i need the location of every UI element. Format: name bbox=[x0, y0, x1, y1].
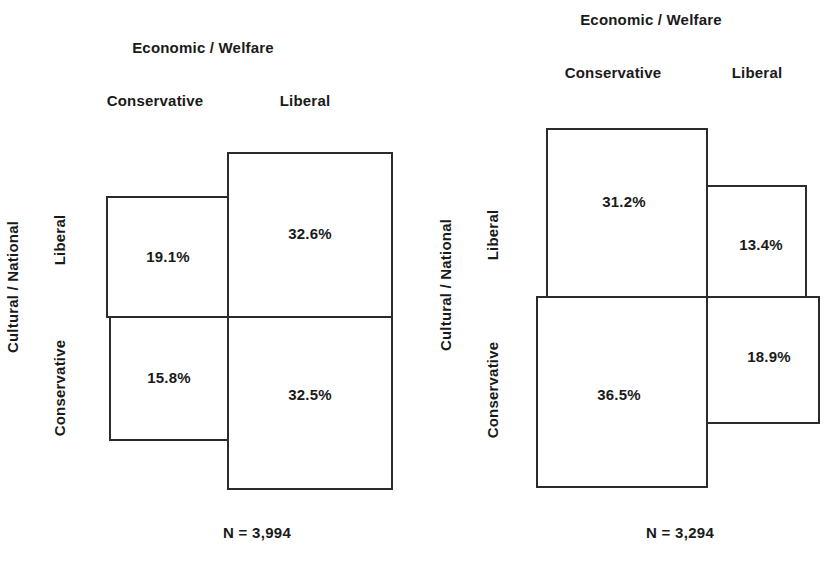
left-column-axis-title: Economic / Welfare bbox=[132, 39, 274, 56]
left-cell-label-conservative-liberal: 32.5% bbox=[288, 386, 332, 403]
mosaic-plot-figure: Economic / Welfare Conservative Liberal … bbox=[0, 0, 834, 567]
left-row-header-conservative: Conservative bbox=[51, 340, 68, 437]
left-cell-label-conservative-conservative: 15.8% bbox=[147, 369, 191, 386]
right-cell-rect-liberal-conservative bbox=[547, 129, 707, 297]
right-row-axis-title: Cultural / National bbox=[437, 219, 454, 351]
right-column-axis-title: Economic / Welfare bbox=[580, 11, 722, 28]
left-sample-size-label: N = 3,994 bbox=[223, 524, 292, 541]
left-cell-label-liberal-conservative: 19.1% bbox=[146, 248, 190, 265]
left-row-header-liberal: Liberal bbox=[51, 215, 68, 266]
right-column-header-conservative: Conservative bbox=[565, 64, 662, 81]
left-row-axis-title: Cultural / National bbox=[4, 221, 21, 353]
left-cell-label-liberal-liberal: 32.6% bbox=[288, 225, 332, 242]
right-row-header-conservative: Conservative bbox=[484, 342, 501, 439]
left-column-header-liberal: Liberal bbox=[280, 92, 331, 109]
left-mosaic-chart: Economic / Welfare Conservative Liberal … bbox=[4, 39, 392, 541]
left-column-header-conservative: Conservative bbox=[107, 92, 204, 109]
right-cell-label-conservative-conservative: 36.5% bbox=[597, 386, 641, 403]
right-cell-label-conservative-liberal: 18.9% bbox=[747, 348, 791, 365]
left-cell-rect-conservative-liberal bbox=[228, 317, 392, 489]
right-mosaic-chart: Economic / Welfare Conservative Liberal … bbox=[437, 11, 819, 541]
right-row-header-liberal: Liberal bbox=[484, 210, 501, 261]
right-cell-label-liberal-conservative: 31.2% bbox=[602, 193, 646, 210]
right-column-header-liberal: Liberal bbox=[732, 64, 783, 81]
right-sample-size-label: N = 3,294 bbox=[646, 524, 715, 541]
right-cell-label-liberal-liberal: 13.4% bbox=[739, 236, 783, 253]
